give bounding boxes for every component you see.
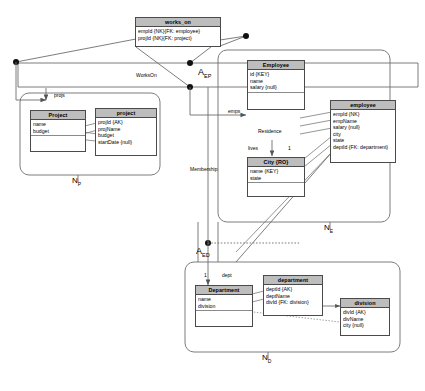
employee-entity-attrs: id {KEY} name salary {null} xyxy=(248,70,304,92)
attr: projId {AK} xyxy=(98,119,156,126)
attr: name xyxy=(250,78,304,85)
np-sub: P xyxy=(78,181,81,187)
attr: name xyxy=(198,296,252,303)
attr: deptName xyxy=(266,293,322,300)
attr: id {KEY} xyxy=(250,71,304,78)
attr: division xyxy=(198,303,252,310)
cardinality-lives: 1 xyxy=(288,145,291,151)
division-table-title: division xyxy=(341,299,389,308)
department-entity-title: Department xyxy=(196,286,252,295)
attr: divId {FK: division} xyxy=(266,299,322,306)
edge-label-workson: WorksOn xyxy=(136,72,157,78)
attr: city {null} xyxy=(343,322,389,329)
project-table-attrs: projId {AK} projName budget startDate {n… xyxy=(96,118,156,146)
employee-table-attrs: empId {NK} empName salary {null} city st… xyxy=(331,110,395,152)
edge-label-lives: lives xyxy=(248,145,258,151)
employee-entity-title: Employee xyxy=(248,61,304,70)
entity-box-department[interactable]: Department name division xyxy=(195,285,253,327)
project-table-title: project xyxy=(96,109,156,118)
table-box-department[interactable]: department deptId {AK} deptName divId {F… xyxy=(263,275,323,316)
relationship-box-works-on[interactable]: works_on empId {NK}{FK: employee} projId… xyxy=(135,17,221,47)
region-label-nd: ND xyxy=(262,353,271,366)
division-table-attrs: divId {AK} divName city {null} xyxy=(341,308,389,330)
attr: projId {NK}{FK: project} xyxy=(138,35,220,42)
attr: budget xyxy=(33,128,85,135)
region-label-ne: NE xyxy=(324,223,333,236)
entity-box-project[interactable]: Project name budget xyxy=(30,110,86,152)
cardinality-dept: 1 xyxy=(204,272,207,278)
edge-label-residence: Residence xyxy=(258,128,282,134)
department-entity-attrs: name division xyxy=(196,295,252,310)
entity-box-employee[interactable]: Employee id {KEY} name salary {null} xyxy=(247,60,305,110)
attr: budget xyxy=(98,132,156,139)
attr: name xyxy=(33,121,85,128)
attr: deptId {FK: department} xyxy=(333,144,395,151)
aed-sub: ED xyxy=(202,252,210,258)
attr: city xyxy=(333,131,395,138)
works-on-attrs: empId {NK}{FK: employee} projId {NK}{FK:… xyxy=(136,27,220,42)
spacer xyxy=(196,310,252,317)
attr: empName xyxy=(333,118,395,125)
works-on-title: works_on xyxy=(136,18,220,27)
attr: deptId {AK} xyxy=(266,286,322,293)
edge-label-dept: dept xyxy=(222,272,232,278)
edge-label-projs: projs xyxy=(54,92,65,98)
attr: projName xyxy=(98,126,156,133)
edge-label-membership: Membership xyxy=(190,166,218,172)
attr: name {KEY} xyxy=(250,168,304,175)
department-table-attrs: deptId {AK} deptName divId {FK: division… xyxy=(264,285,322,307)
project-entity-attrs: name budget xyxy=(31,120,85,135)
attr: empId {NK} xyxy=(333,111,395,118)
spacer xyxy=(31,135,85,142)
spacer xyxy=(248,92,304,99)
city-entity-title: City {RO} xyxy=(248,158,304,167)
diagram-canvas: works_on empId {NK}{FK: employee} projId… xyxy=(0,0,425,391)
attr: state xyxy=(250,175,304,182)
attr: salary {null} xyxy=(333,124,395,131)
entity-box-city[interactable]: City {RO} name {KEY} state xyxy=(247,157,305,197)
region-label-aep: AEP xyxy=(198,67,211,81)
spacer xyxy=(248,182,304,189)
region-label-np: NP xyxy=(72,176,81,189)
edge-label-emps: emps xyxy=(228,108,240,114)
city-entity-attrs: name {KEY} state xyxy=(248,167,304,182)
table-box-project[interactable]: project projId {AK} projName budget star… xyxy=(95,108,157,156)
nd-sub: D xyxy=(268,358,272,364)
table-box-division[interactable]: division divId {AK} divName city {null} xyxy=(340,298,390,336)
region-label-aed: AED xyxy=(196,246,210,260)
attr: startDate {null} xyxy=(98,139,156,146)
ne-sub: E xyxy=(330,228,333,234)
table-box-employee[interactable]: employee empId {NK} empName salary {null… xyxy=(330,100,396,163)
attr: salary {null} xyxy=(250,84,304,91)
attr: empId {NK}{FK: employee} xyxy=(138,28,220,35)
attr: divId {AK} xyxy=(343,309,389,316)
attr: state xyxy=(333,137,395,144)
employee-table-title: employee xyxy=(331,101,395,110)
aep-sub: EP xyxy=(204,73,211,79)
attr: divName xyxy=(343,316,389,323)
department-table-title: department xyxy=(264,276,322,285)
project-entity-title: Project xyxy=(31,111,85,120)
